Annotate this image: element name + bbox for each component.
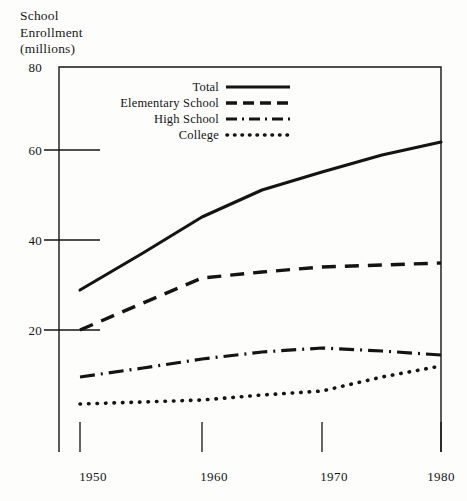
y-tick-label-60: 60 xyxy=(29,143,42,158)
series-high-school xyxy=(80,348,441,377)
series-elementary-school xyxy=(80,263,441,330)
chart-legend: Total Elementary School High School Coll… xyxy=(120,80,290,142)
legend-label-college: College xyxy=(179,128,220,142)
legend-label-high-school: High School xyxy=(154,112,219,126)
legend-label-total: Total xyxy=(192,80,219,94)
x-tick-label-1970: 1970 xyxy=(320,469,348,484)
y-tick-label-20: 20 xyxy=(29,323,42,338)
x-tick-label-1980: 1980 xyxy=(427,469,455,484)
x-axis-ticks xyxy=(80,422,441,452)
series-college xyxy=(80,366,441,404)
x-tick-label-1950: 1950 xyxy=(79,469,107,484)
y-tick-label-40: 40 xyxy=(29,233,42,248)
chart-figure: School Enrollment (millions) 80 60 40 20 xyxy=(0,0,467,501)
x-tick-label-1960: 1960 xyxy=(200,469,228,484)
y-tick-label-80: 80 xyxy=(29,60,42,75)
y-axis-tick-labels: 80 60 40 20 xyxy=(29,60,42,338)
y-axis-ticks xyxy=(44,150,100,330)
line-chart-plot: 80 60 40 20 1950 1960 1970 1980 xyxy=(0,0,467,501)
x-axis-tick-labels: 1950 1960 1970 1980 xyxy=(79,469,455,484)
series-total xyxy=(80,142,441,290)
legend-label-elementary-school: Elementary School xyxy=(120,96,219,110)
